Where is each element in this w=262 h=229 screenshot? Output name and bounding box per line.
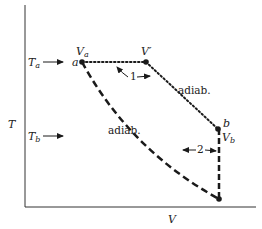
- path2-adiabat: [82, 62, 219, 199]
- path2-number: 2: [197, 143, 204, 155]
- point-bottom: [216, 196, 222, 202]
- ta-label: Ta: [28, 56, 40, 70]
- y-axis-label: T: [8, 118, 17, 131]
- point-b: [215, 126, 221, 132]
- path2-adiabat-label: adiab.: [108, 124, 141, 136]
- point-b-label: b: [223, 117, 230, 130]
- tv-diagram: T V Ta Tb a Va V′ b Vb 1 adiab. adiab. 2: [0, 0, 262, 229]
- v-prime-label: V′: [141, 45, 152, 58]
- point-a: [79, 59, 85, 65]
- path1-right-arrow-icon: [137, 76, 150, 77]
- path1-left-arrow-icon: [117, 67, 128, 77]
- va-label: Va: [76, 45, 89, 59]
- path1-adiabat-label: adiab.: [178, 84, 211, 96]
- point-v-prime: [143, 59, 149, 65]
- x-axis-label: V: [168, 213, 177, 226]
- path2-right-arrow-icon: [205, 150, 216, 151]
- path1-number: 1: [130, 70, 137, 82]
- vb-label: Vb: [222, 131, 235, 145]
- tb-label: Tb: [28, 130, 40, 144]
